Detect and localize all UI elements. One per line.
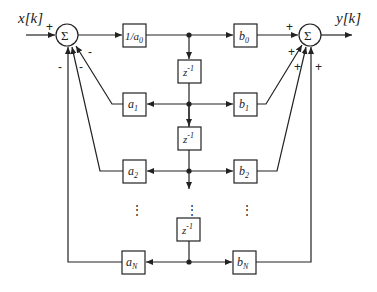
b0-box: b0 bbox=[234, 24, 257, 47]
delay-box-N: z-1 bbox=[177, 218, 200, 241]
gain-1-over-a0-box: 1/a0 bbox=[123, 24, 146, 47]
a2-minus-sign: - bbox=[79, 60, 83, 74]
input-plus-sign: + bbox=[46, 20, 53, 34]
aN-minus-sign: - bbox=[58, 60, 62, 74]
b2-plus-sign: + bbox=[294, 60, 301, 74]
b0-plus-sign: + bbox=[286, 20, 293, 34]
ellipsis-b: ⋮ bbox=[241, 203, 253, 217]
a2-box: a2 bbox=[123, 160, 146, 183]
svg-text:Σ: Σ bbox=[304, 28, 312, 43]
left-summer: Σ bbox=[56, 24, 78, 46]
b1-plus-sign: + bbox=[288, 45, 295, 59]
aN-box: aN bbox=[122, 251, 145, 274]
output-label: y[k] bbox=[334, 10, 361, 26]
bN-plus-sign: + bbox=[315, 60, 322, 74]
delay-box-1: z-1 bbox=[178, 60, 201, 83]
ellipsis-delay: ⋮ bbox=[186, 203, 198, 217]
bN-feedforward-line bbox=[256, 47, 311, 262]
ellipsis-a: ⋮ bbox=[131, 203, 143, 217]
input-label: x[k] bbox=[17, 10, 43, 26]
b1-box: b1 bbox=[234, 93, 257, 116]
aN-feedback-line bbox=[68, 47, 122, 262]
b2-box: b2 bbox=[234, 160, 257, 183]
a1-box: a1 bbox=[123, 93, 146, 116]
a1-minus-sign: - bbox=[88, 45, 92, 59]
iir-filter-diagram: x[k] + Σ 1/a0 b0 + Σ y[k] z-1 z-1 ⋮ ⋮ bbox=[0, 0, 377, 292]
delay-box-2: z-1 bbox=[178, 127, 201, 150]
bN-box: bN bbox=[233, 251, 256, 274]
right-summer: Σ bbox=[299, 24, 321, 46]
svg-text:Σ: Σ bbox=[61, 28, 69, 43]
